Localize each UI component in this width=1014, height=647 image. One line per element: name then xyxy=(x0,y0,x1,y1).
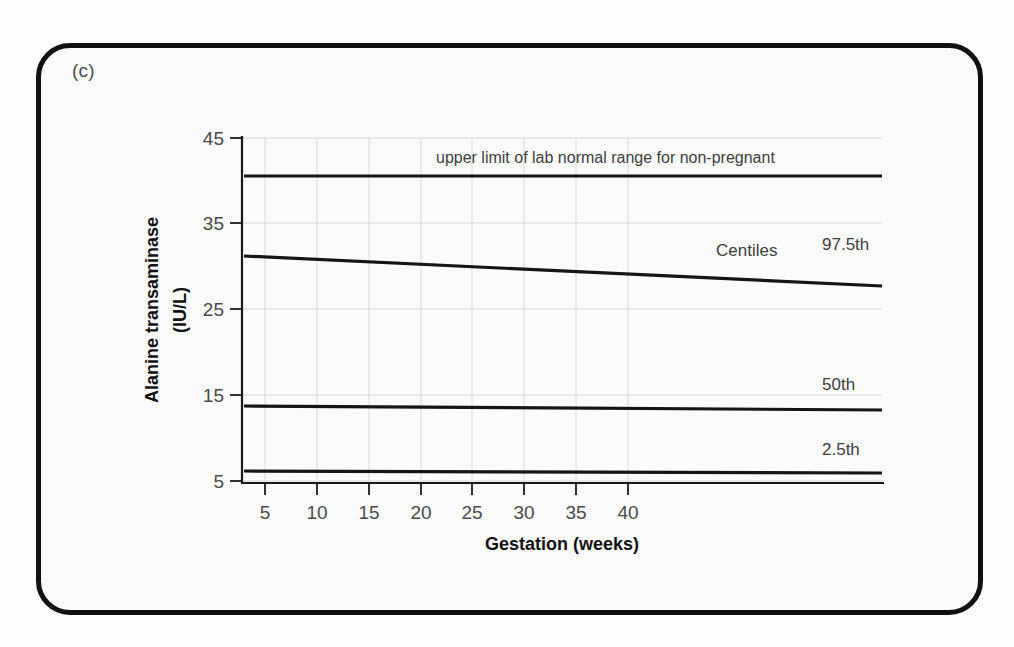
x-tick-label: 30 xyxy=(513,502,534,523)
x-axis-ticks xyxy=(265,483,628,495)
series-2-5th xyxy=(244,471,882,473)
x-axis-title: Gestation (weeks) xyxy=(485,534,639,554)
horizontal-gridlines xyxy=(242,138,882,481)
y-tick-label: 45 xyxy=(203,128,224,149)
y-tick-label: 35 xyxy=(203,213,224,234)
y-axis-title-line1: Alanine transaminase xyxy=(142,217,162,403)
x-tick-label: 40 xyxy=(617,502,638,523)
x-tick-label: 20 xyxy=(410,502,431,523)
series-label-50th: 50th xyxy=(822,375,855,394)
figure-page: (c) xyxy=(0,0,1014,647)
series-label-97-5th: 97.5th xyxy=(822,235,869,254)
x-tick-label: 5 xyxy=(260,502,271,523)
x-axis-tick-labels: 5 10 15 20 25 30 35 40 xyxy=(260,502,639,523)
y-axis-ticks xyxy=(230,138,242,481)
x-tick-label: 35 xyxy=(565,502,586,523)
legend-title-centiles: Centiles xyxy=(716,241,777,260)
y-tick-label: 5 xyxy=(213,471,224,492)
y-axis-tick-labels: 45 35 25 15 5 xyxy=(203,128,224,492)
series-label-2-5th: 2.5th xyxy=(822,440,860,459)
y-tick-label: 25 xyxy=(203,299,224,320)
series-97-5th xyxy=(244,256,882,286)
annotation-upper-limit: upper limit of lab normal range for non-… xyxy=(436,149,775,166)
x-tick-label: 25 xyxy=(461,502,482,523)
x-tick-label: 15 xyxy=(358,502,379,523)
y-tick-label: 15 xyxy=(203,385,224,406)
series-50th xyxy=(244,406,882,410)
x-tick-label: 10 xyxy=(306,502,327,523)
y-axis-title-line2: (IU/L) xyxy=(170,287,190,333)
chart-plot: 45 35 25 15 5 5 10 15 20 25 30 35 40 Ges… xyxy=(0,0,1014,647)
